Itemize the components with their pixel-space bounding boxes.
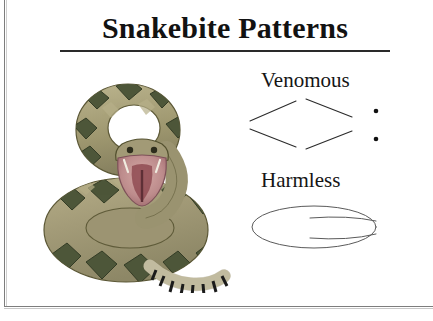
page-border-bottom [4,306,433,307]
fang-mark-upper [374,109,379,114]
venomous-bite-pattern [248,96,398,152]
snake-eye-right [151,147,157,153]
slide-canvas: Snakebite Patterns Venomous Harmless [0,0,433,321]
venomous-bite-diagram [248,96,398,152]
title-underline [60,50,390,52]
snake-eye-left [127,147,133,153]
title-block: Snakebite Patterns [55,11,395,45]
harmless-bite-diagram [248,196,398,258]
page-border-left-inner [6,0,7,306]
page-border-left [4,0,5,307]
harmless-bite-pattern [248,196,398,258]
coiled-rattlesnake-illustration [38,78,238,293]
label-harmless: Harmless [261,168,340,192]
page-border-bottom-inner [4,308,433,309]
label-venomous: Venomous [261,68,350,92]
snake-rattle-tail [150,266,227,293]
fang-mark-lower [374,137,379,142]
snake-artwork [38,78,238,293]
page-title: Snakebite Patterns [55,11,395,45]
